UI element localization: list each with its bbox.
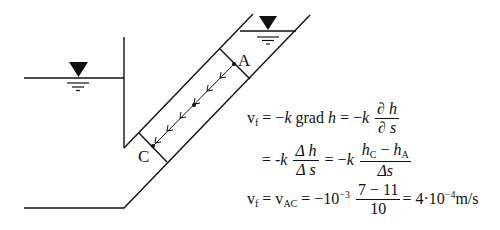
equation-darcy-gradient: vf = −k grad h = −k ∂ h ∂ s (247, 101, 401, 137)
channel-upper-wall (124, 14, 253, 148)
equation-finite-difference: = -k Δ h Δ s = −k hC − hA Δs (262, 142, 413, 180)
point-c-label: C (138, 148, 149, 165)
water-level-icon-right (257, 16, 279, 44)
point-c-marker (151, 144, 155, 148)
water-level-icon-left (67, 62, 89, 91)
point-mid-marker (192, 103, 196, 107)
equation-numeric-result: vf = vAC = −10−3 7 − 11 10 = 4·10−4m/s (247, 182, 479, 218)
point-a-label: A (238, 52, 250, 69)
point-a-marker (232, 62, 236, 66)
fraction-delta: Δ h Δ s (293, 143, 318, 179)
fraction-numeric: 7 − 11 10 (356, 182, 400, 218)
fraction-head-difference: hC − hA Δs (360, 142, 411, 180)
fraction-partial: ∂ h ∂ s (375, 101, 399, 137)
